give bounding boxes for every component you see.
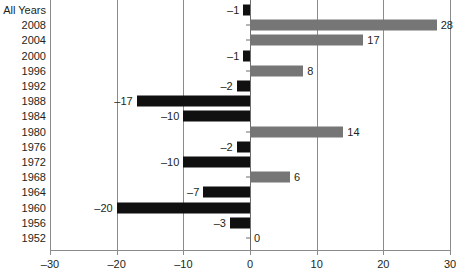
bar-2000	[243, 50, 250, 61]
bar-all-years	[243, 5, 250, 16]
bar-1964	[203, 187, 250, 198]
x-tick-label: 10	[311, 258, 323, 270]
x-tick--20	[117, 250, 118, 255]
value-label-1984: –10	[161, 111, 179, 122]
bar-1956	[230, 217, 250, 228]
category-label-1972: 1972	[22, 157, 46, 168]
gridline-20	[383, 0, 384, 250]
category-label-1968: 1968	[22, 172, 46, 183]
value-label-1952: 0	[254, 233, 260, 244]
value-label-2004: 17	[367, 35, 379, 46]
bar-2008	[250, 20, 437, 31]
value-label-2008: 28	[441, 20, 453, 31]
value-label-1980: 14	[347, 126, 359, 137]
bar-1976	[237, 141, 250, 152]
x-tick-label: –20	[107, 258, 125, 270]
value-label-2000: –1	[227, 50, 239, 61]
x-tick-label: 30	[444, 258, 456, 270]
x-tick-label: 20	[377, 258, 389, 270]
category-label-1992: 1992	[22, 81, 46, 92]
x-tick-label: –10	[174, 258, 192, 270]
category-label-1956: 1956	[22, 217, 46, 228]
x-tick-10	[317, 250, 318, 255]
bar-1996	[250, 65, 303, 76]
category-label-2000: 2000	[22, 50, 46, 61]
x-tick-label: 0	[247, 258, 253, 270]
value-label-1996: 8	[307, 65, 313, 76]
bar-1988	[137, 96, 250, 107]
x-tick-30	[450, 250, 451, 255]
category-label-1964: 1964	[22, 187, 46, 198]
gridline-30	[450, 0, 451, 250]
x-tick--30	[50, 250, 51, 255]
x-tick-0	[250, 250, 251, 255]
bar-2004	[250, 35, 363, 46]
value-label-1968: 6	[294, 172, 300, 183]
horizontal-bar-chart: All Years2008200420001996199219881984198…	[0, 0, 470, 280]
category-label-1960: 1960	[22, 202, 46, 213]
x-tick-label: –30	[41, 258, 59, 270]
value-label-1960: –20	[94, 202, 112, 213]
bar-1972	[183, 157, 250, 168]
value-label-1972: –10	[161, 157, 179, 168]
category-label-2008: 2008	[22, 20, 46, 31]
category-label-1952: 1952	[22, 233, 46, 244]
x-tick-20	[383, 250, 384, 255]
category-label-1996: 1996	[22, 65, 46, 76]
value-label-1988: –17	[114, 96, 132, 107]
bar-1968	[250, 172, 290, 183]
bar-1980	[250, 126, 343, 137]
value-label-1992: –2	[220, 81, 232, 92]
category-label-1988: 1988	[22, 96, 46, 107]
category-label-1980: 1980	[22, 126, 46, 137]
category-label-1976: 1976	[22, 141, 46, 152]
category-label-all-years: All Years	[3, 5, 46, 16]
gridline--30	[50, 0, 51, 250]
category-label-2004: 2004	[22, 35, 46, 46]
category-label-1984: 1984	[22, 111, 46, 122]
bar-1960	[117, 202, 250, 213]
value-label-1956: –3	[214, 217, 226, 228]
bar-1992	[237, 81, 250, 92]
row-tick	[246, 238, 250, 239]
value-label-1964: –7	[187, 187, 199, 198]
bar-1984	[183, 111, 250, 122]
x-tick--10	[183, 250, 184, 255]
value-label-1976: –2	[220, 141, 232, 152]
value-label-all-years: –1	[227, 5, 239, 16]
